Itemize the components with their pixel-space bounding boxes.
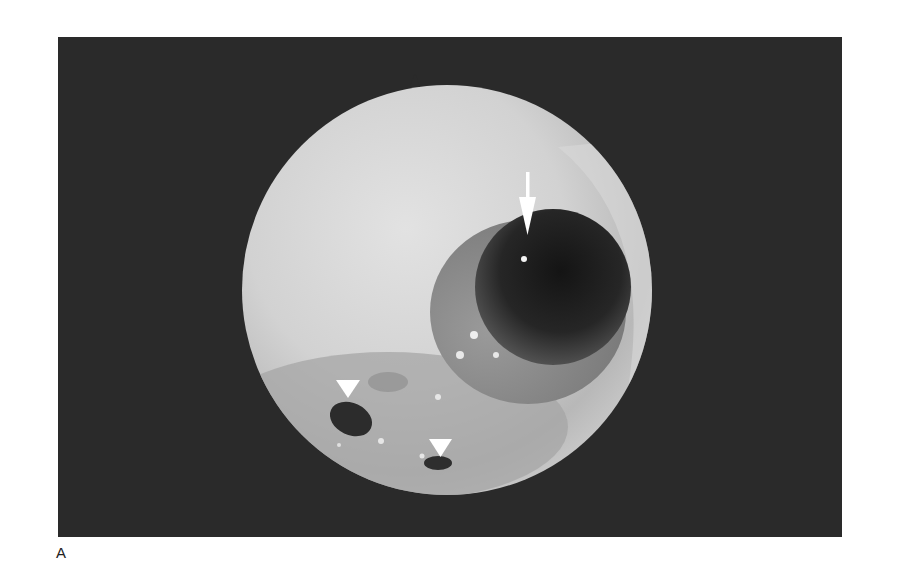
figure: A [0, 0, 899, 568]
image-panel [58, 37, 842, 537]
endoscopic-view [58, 37, 842, 537]
panel-label: A [56, 544, 66, 561]
